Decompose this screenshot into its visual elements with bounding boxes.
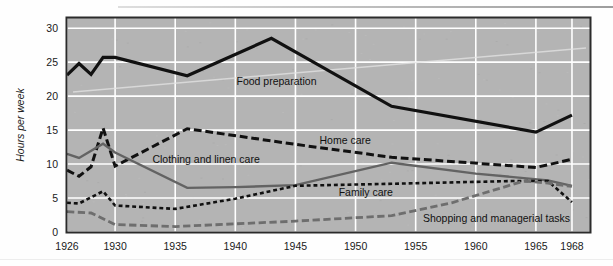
grain-speck [380,200,382,201]
grain-speck [125,194,127,195]
grain-speck [389,172,391,173]
grain-speck [209,137,211,138]
grain-speck [393,120,395,121]
grain-speck [80,85,82,86]
grain-speck [374,212,376,213]
grain-speck [227,88,229,89]
grain-speck [525,171,527,172]
grain-speck [142,217,144,218]
grain-speck [478,74,480,75]
x-tick-label: 1968 [560,240,584,252]
grain-speck [580,26,582,27]
grain-speck [225,144,227,145]
plot-background [67,18,590,232]
y-tick-label: 0 [52,226,58,238]
grain-speck [69,216,71,217]
y-tick-label: 5 [52,192,58,204]
grain-speck [141,221,143,222]
grain-speck [144,192,146,193]
grain-speck [423,34,425,35]
grain-speck [444,206,446,207]
grain-speck [373,44,375,45]
x-tick-label: 1930 [103,240,127,252]
series-label-0: Food preparation [237,75,317,87]
grain-speck [367,215,369,216]
grain-speck [222,179,224,180]
grain-speck [246,29,248,30]
grain-speck [510,159,512,160]
grain-speck [529,122,531,123]
y-axis-ticks: 051015202530 [46,22,58,238]
grain-speck [408,98,410,99]
grain-speck [247,175,249,176]
grain-speck [156,135,158,136]
grain-speck [471,229,473,230]
grain-speck [362,162,364,163]
grain-speck [97,182,99,183]
grain-speck [351,93,353,94]
grain-speck [557,115,559,116]
grain-speck [185,31,187,32]
grain-speck [217,145,219,146]
grain-speck [105,222,107,223]
grain-speck [200,178,202,179]
grain-speck [242,227,244,228]
grain-speck [496,41,498,42]
y-tick-label: 10 [46,158,58,170]
grain-speck [306,38,308,39]
y-tick-label: 30 [46,22,58,34]
grain-speck [322,64,324,65]
grain-speck [567,72,569,73]
grain-speck [495,186,497,187]
grain-speck [302,39,304,40]
series-label-2: Clothing and linen care [152,153,260,165]
grain-speck [557,110,559,111]
series-label-4: Shopping and managerial tasks [423,212,570,224]
grain-speck [86,180,88,181]
grain-speck [446,39,448,40]
grain-speck [282,112,284,113]
grain-speck [290,162,292,163]
x-tick-label: 1935 [164,240,188,252]
x-tick-label: 1950 [344,240,368,252]
grain-speck [487,126,489,127]
grain-speck [301,94,303,95]
grain-speck [71,230,73,231]
grain-speck [437,143,439,144]
grain-speck [412,170,414,171]
grain-speck [516,175,518,176]
grain-speck [399,181,401,182]
grain-speck [331,24,333,25]
x-tick-label: 1955 [404,240,428,252]
grain-speck [471,168,473,169]
scan-artifact-line-top [118,6,613,8]
grain-speck [331,119,333,120]
grain-speck [68,69,70,70]
y-tick-label: 20 [46,90,58,102]
grain-speck [199,42,201,43]
grain-speck [369,59,371,60]
y-axis-title: Hours per week [14,87,26,161]
grain-speck [187,125,189,126]
grain-speck [438,78,440,79]
x-tick-label: 1926 [55,240,79,252]
grain-speck [116,40,118,41]
x-tick-label: 1965 [524,240,548,252]
grain-speck [142,203,144,204]
grain-speck [126,196,128,197]
grain-speck [202,71,204,72]
grain-speck [209,22,211,23]
grain-speck [499,90,501,91]
grain-speck [500,174,502,175]
grain-speck [93,152,95,153]
grain-speck [164,147,166,148]
grain-speck [213,143,215,144]
grain-speck [486,80,488,81]
grain-speck [365,35,367,36]
grain-speck [584,123,586,124]
grain-speck [448,155,450,156]
grain-speck [213,77,215,78]
series-label-1: Home care [320,134,372,146]
grain-speck [397,215,399,216]
grain-speck [315,29,317,30]
